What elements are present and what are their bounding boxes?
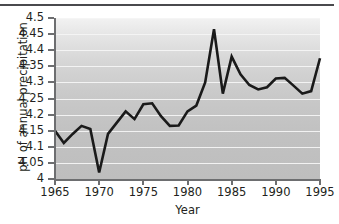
y-tick-mark — [48, 162, 54, 164]
plot-area — [55, 18, 320, 179]
x-tick-label: 1965 — [32, 187, 78, 199]
x-tick-label: 1990 — [253, 187, 299, 199]
x-tick-label: 1970 — [76, 187, 122, 199]
y-axis-title: pH of annual precipitation — [17, 12, 29, 182]
y-tick-mark — [48, 146, 54, 148]
series-line-chart — [55, 18, 320, 179]
x-tick-label: 1980 — [165, 187, 211, 199]
x-tick-label: 1975 — [120, 187, 166, 199]
y-tick-mark — [48, 65, 54, 67]
y-tick-mark — [48, 81, 54, 83]
top-divider-rule — [0, 4, 334, 6]
x-tick-label: 1985 — [209, 187, 255, 199]
y-tick-mark — [48, 17, 54, 19]
x-tick-label: 1995 — [297, 187, 339, 199]
y-tick-mark — [48, 33, 54, 35]
x-axis-title: Year — [55, 204, 320, 216]
y-axis-line — [54, 18, 56, 180]
y-tick-mark — [48, 49, 54, 51]
y-tick-mark — [48, 98, 54, 100]
y-tick-mark — [48, 114, 54, 116]
y-tick-mark — [48, 130, 54, 132]
series-ph-line — [55, 29, 320, 172]
